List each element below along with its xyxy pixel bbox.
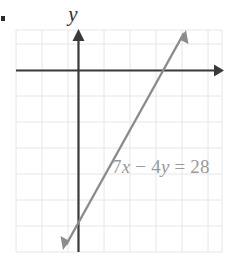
y-axis [73, 29, 85, 252]
equation-line [61, 30, 189, 250]
coordinate-plane [0, 0, 229, 259]
grid-lines [16, 30, 222, 252]
graph-figure: y [0, 0, 229, 259]
x-axis [16, 65, 224, 77]
equation-annotation: 7x − 4y = 28 [112, 155, 210, 179]
